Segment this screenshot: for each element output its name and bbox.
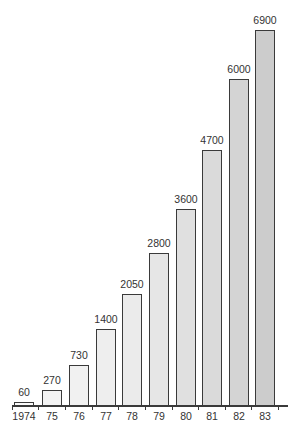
bar-83 [255,30,275,405]
bar-value-label: 1400 [86,313,126,325]
x-axis [12,405,288,407]
bar-80 [176,209,196,405]
bar-value-label: 6900 [245,14,285,26]
bar-value-label: 6000 [219,63,259,75]
bar-75 [42,390,62,405]
bar-1974 [14,402,34,405]
bar-81 [202,150,222,405]
bar-76 [69,365,89,405]
bar-value-label: 2050 [112,278,152,290]
bar-value-label: 2800 [139,237,179,249]
bar-77 [96,329,116,405]
bar-value-label: 3600 [166,193,206,205]
bar-82 [229,79,249,405]
x-axis-label: 83 [248,410,282,422]
bar-79 [149,253,169,405]
bar-value-label: 270 [32,374,72,386]
bar-value-label: 730 [59,349,99,361]
bar-value-label: 60 [4,386,44,398]
bar-78 [122,294,142,405]
bar-value-label: 4700 [192,134,232,146]
bar-chart: 6019742707573076140077205078280079360080… [0,0,294,432]
